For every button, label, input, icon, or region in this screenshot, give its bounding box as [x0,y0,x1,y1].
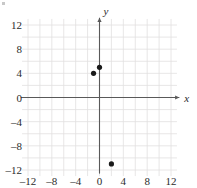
y-tick-label: 12 [11,19,22,31]
x-tick-label: 12 [166,175,177,187]
axis-name-labels: xy [103,5,190,104]
y-tick-label: 4 [17,67,23,79]
x-tick-label: 0 [97,175,103,187]
y-tick-label: 0 [17,92,23,104]
data-point [97,65,102,70]
y-axis-arrowhead [97,18,101,22]
y-tick-label: –4 [10,116,23,128]
x-axis-tick-labels: –12–8–404812 [19,175,177,187]
y-tick-label: –12 [5,164,23,176]
x-tick-label: 8 [144,175,150,187]
x-tick-label: –8 [45,175,58,187]
coordinate-plane-figure: xy –12–8–404812 12840–4–8–12 [0,0,197,188]
y-axis-label: y [103,5,109,17]
y-tick-label: 8 [17,43,23,55]
axis-lines [21,18,179,174]
x-tick-label: –4 [69,175,82,187]
data-points-group [91,65,114,167]
data-point [91,71,96,76]
x-axis-label: x [183,92,189,104]
x-tick-label: 4 [121,175,127,187]
y-axis-tick-labels: 12840–4–8–12 [5,19,23,176]
y-tick-label: –8 [10,140,23,152]
corner-artifact-mark [2,2,5,5]
coordinate-plane-svg: xy –12–8–404812 12840–4–8–12 [0,0,197,188]
data-point [109,161,114,166]
x-tick-label: –12 [19,175,37,187]
x-axis-arrowhead [175,95,179,99]
